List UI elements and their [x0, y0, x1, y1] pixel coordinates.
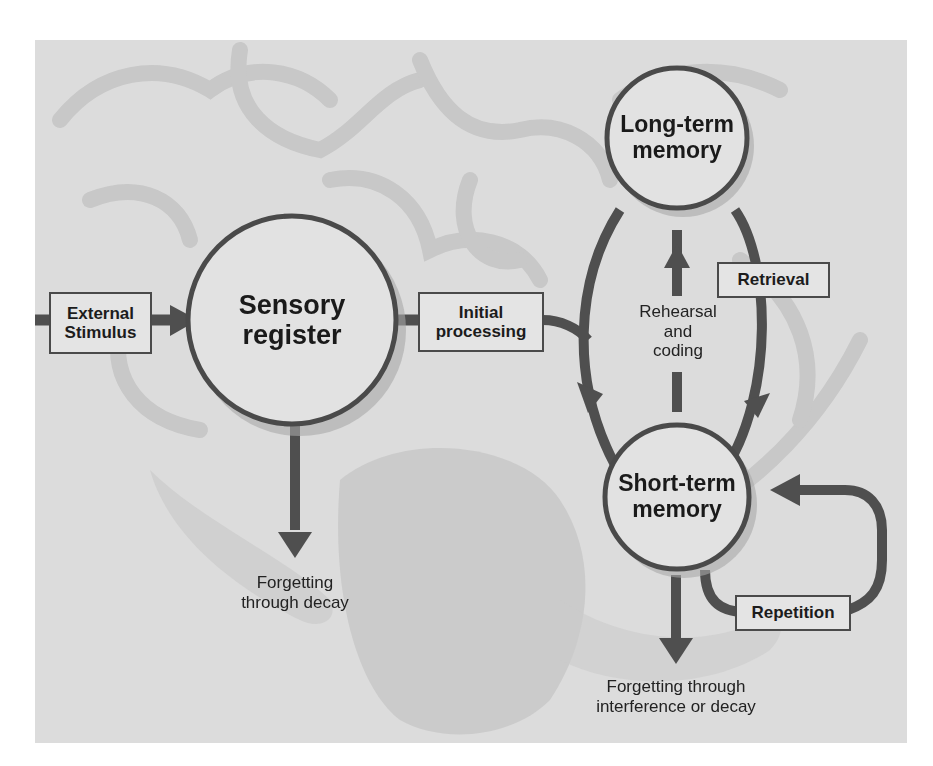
rehearsal-and-coding-label: Rehearsal and coding [620, 302, 736, 361]
external-stimulus-line2: Stimulus [65, 323, 137, 342]
rehearsal-line2: and [620, 322, 736, 342]
repetition-box: Repetition [735, 595, 851, 631]
forgetting-decay-line1: Forgetting [215, 573, 375, 593]
sensory-register-line2: register [239, 320, 346, 350]
forgetting-decay-line2: through decay [215, 593, 375, 613]
sensory-register-label: Sensory register [200, 282, 384, 358]
arrow-sensory-forgetting-icon [278, 532, 312, 558]
long-term-memory-line2: memory [620, 138, 734, 164]
short-term-memory-label: Short-term memory [605, 463, 749, 531]
arrow-repetition-icon [770, 474, 800, 506]
forgetting-through-decay-label: Forgetting through decay [215, 573, 375, 612]
external-stimulus-line1: External [65, 304, 137, 323]
forgetting-interference-label: Forgetting through interference or decay [566, 677, 786, 716]
rehearsal-line3: coding [620, 341, 736, 361]
forgetting-interference-line1: Forgetting through [566, 677, 786, 697]
memory-model-diagram [0, 0, 933, 766]
initial-processing-box: Initial processing [418, 292, 544, 352]
forgetting-interference-line2: interference or decay [566, 697, 786, 717]
initial-processing-line1: Initial [436, 303, 527, 322]
retrieval-label: Retrieval [738, 270, 810, 289]
external-stimulus-box: External Stimulus [49, 292, 152, 354]
short-term-memory-line2: memory [618, 497, 736, 523]
short-term-memory-line1: Short-term [618, 471, 736, 497]
repetition-label: Repetition [751, 603, 834, 622]
retrieval-box: Retrieval [717, 262, 830, 298]
rehearsal-line1: Rehearsal [620, 302, 736, 322]
long-term-memory-label: Long-term memory [607, 104, 747, 172]
arrow-up-rehearsal-icon [664, 244, 690, 268]
sensory-register-line1: Sensory [239, 290, 346, 320]
initial-processing-line2: processing [436, 322, 527, 341]
long-term-memory-line1: Long-term [620, 112, 734, 138]
